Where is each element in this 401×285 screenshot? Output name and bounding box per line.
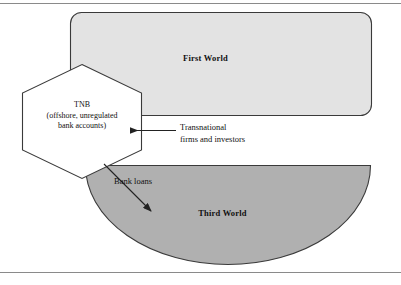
tnb-line-3: bank accounts) <box>22 121 142 132</box>
tnb-line-2: (offshore, unregulated <box>22 111 142 122</box>
figure-root: First World Third World TNB (offshore, u… <box>0 0 401 285</box>
label-first-world: First World <box>0 53 401 63</box>
label-bank-loans: Bank loans <box>114 176 152 186</box>
tnb-line-1: TNB <box>22 100 142 111</box>
label-third-world: Third World <box>0 208 401 218</box>
transnational-line-2: firms and investors <box>180 134 245 146</box>
transnational-line-1: Transnational <box>180 122 245 134</box>
label-transnational-firms: Transnational firms and investors <box>180 122 245 145</box>
label-tnb: TNB (offshore, unregulated bank accounts… <box>22 100 142 132</box>
